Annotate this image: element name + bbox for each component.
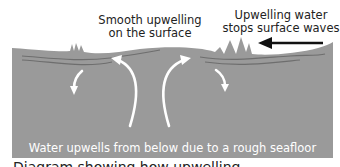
seafloor-label: Water upwells from below due to a rough … <box>12 141 333 155</box>
label-line: on the surface <box>80 27 220 40</box>
water-body <box>12 37 333 158</box>
stops-waves-label: Upwelling water stops surface waves <box>216 9 340 35</box>
smooth-upwelling-label: Smooth upwelling on the surface <box>80 14 220 40</box>
upwelling-diagram: Smooth upwelling on the surface Upwellin… <box>0 0 340 167</box>
wind-arrowhead <box>258 37 272 49</box>
caption: Diagram showing how upwelling <box>13 159 240 167</box>
label-line: stops surface waves <box>216 22 340 35</box>
